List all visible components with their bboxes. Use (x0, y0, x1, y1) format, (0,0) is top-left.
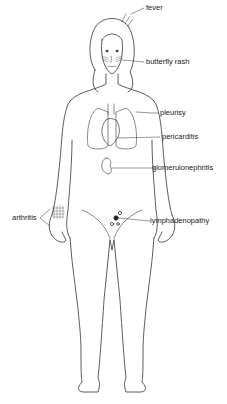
label-pleurisy: pleurisy (160, 109, 186, 117)
lymph-nodes (110, 211, 121, 225)
label-pericarditis: pericarditis (162, 133, 198, 141)
hair-outline (90, 19, 134, 93)
label-lymphadenopathy: lymphadenopathy (150, 217, 209, 225)
leader-lymphadenopathy (118, 218, 150, 221)
label-arthritis: arthritis (12, 214, 37, 222)
label-glomerulonephritis: glomerulonephritis (152, 164, 213, 172)
leader-pleurisy (136, 112, 158, 113)
label-fever: fever (146, 4, 163, 12)
heart (102, 119, 119, 147)
leader-pericarditis (118, 137, 160, 138)
fever-marks (122, 14, 133, 26)
label-butterfly-rash: butterfly rash (146, 58, 189, 66)
leader-fever (131, 8, 144, 14)
face-outline (101, 34, 122, 74)
leader-arthritis (40, 209, 50, 226)
lungs (87, 108, 136, 149)
kidney (102, 158, 112, 174)
body-illustration (0, 0, 227, 404)
left-hand (49, 215, 66, 242)
diagram-canvas: fever butterfly rash pleurisy pericardit… (0, 0, 227, 404)
